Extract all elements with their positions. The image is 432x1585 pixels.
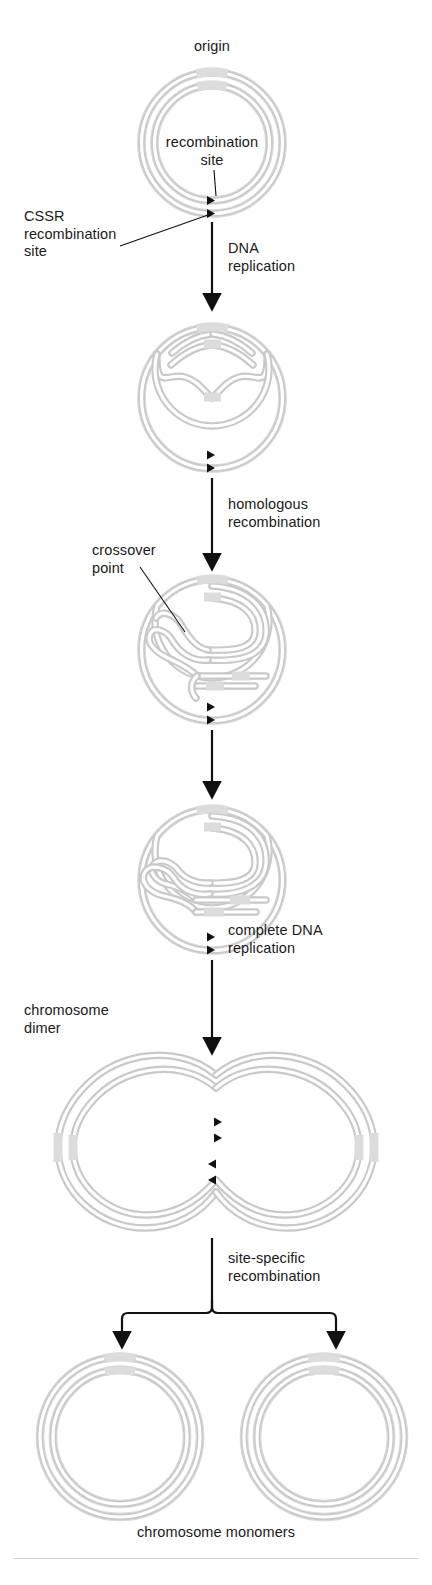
- stage-3-crossover: [138, 567, 287, 724]
- step-label-homologous-recombination: homologous recombination: [228, 496, 320, 531]
- stage-5-chromosome-dimer: [58, 1055, 374, 1228]
- crossed-strand-right-lower: [208, 598, 255, 650]
- origin-band-outer: [197, 327, 228, 329]
- step-label-site-specific-recombination: site-specific recombination: [228, 1250, 320, 1285]
- footer-divider: [14, 1558, 418, 1559]
- cssr-site-marker: [207, 703, 215, 712]
- label-recombination-site: recombination site: [142, 134, 282, 169]
- cssr-site-marker: [214, 1118, 222, 1127]
- origin-band-outer: [197, 72, 228, 74]
- fork-branch-right: [212, 1300, 336, 1340]
- label-cssr-recombination-site: CSSR recombination site: [24, 208, 116, 261]
- label-crossover-point: crossover point: [92, 542, 156, 577]
- cssr-site-marker: [208, 1160, 216, 1169]
- cssr-leader: [120, 215, 208, 246]
- origin-band-inner: [309, 1370, 339, 1372]
- label-chromosome-monomers: chromosome monomers: [106, 1524, 326, 1542]
- stage-6-chromosome-monomers: [36, 1353, 408, 1521]
- recombination-site-leader: [214, 170, 216, 196]
- step-label-complete-dna-replication: complete DNA replication: [228, 922, 323, 957]
- monomer-right: [240, 1353, 408, 1521]
- origin-band-outer: [104, 1357, 136, 1359]
- origin-band-outer: [197, 579, 228, 581]
- origin-band-inner: [105, 1370, 135, 1372]
- origin-band-inner: [198, 85, 227, 87]
- origin-band-outer: [308, 1357, 340, 1359]
- origin-band-outer: [197, 809, 228, 811]
- label-chromosome-dimer: chromosome dimer: [24, 1002, 109, 1037]
- cssr-site-marker: [207, 451, 215, 460]
- label-origin: origin: [152, 38, 272, 56]
- figure-canvas: origin recombination site CSSR recombina…: [0, 0, 432, 1585]
- fork-branch-left: [122, 1300, 212, 1340]
- cssr-site-marker: [207, 933, 215, 942]
- stage-2-replication-bubble: [138, 324, 287, 473]
- cssr-site-marker: [214, 1134, 222, 1143]
- monomer-left: [36, 1353, 204, 1521]
- step-label-dna-replication: DNA replication: [228, 240, 295, 275]
